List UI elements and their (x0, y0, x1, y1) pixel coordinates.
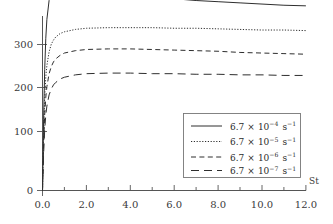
x-axis-label: St (309, 176, 319, 186)
legend-base-2: 10 (258, 153, 270, 163)
y-tick-label-0: 0 (27, 185, 33, 196)
y-tick-label-100: 100 (14, 126, 33, 137)
y-tick-label-300: 300 (14, 39, 33, 50)
legend-exponent-1: −5 (269, 136, 278, 143)
legend-mantissa-1: 6.7 (230, 137, 245, 147)
legend-label-3: 6.7×10−7s−1 (230, 165, 296, 177)
y-tick-label-200: 200 (14, 82, 33, 93)
legend-times-0: × (247, 122, 255, 132)
x-tick-group: 0.0 2.0 4.0 6.0 8.0 10.0 12.0 (35, 185, 317, 210)
legend-label-2: 6.7×10−6s−1 (230, 151, 296, 163)
legend-times-3: × (247, 166, 255, 176)
chart-figure: 300 200 100 0 0.0 2.0 4.0 6.0 8.0 10.0 (0, 0, 333, 224)
legend-exponent-2: −6 (269, 151, 278, 158)
legend-base-3: 10 (258, 166, 270, 176)
x-tick-label-0: 0.0 (35, 199, 51, 210)
legend-exponent-3: −7 (269, 165, 278, 172)
x-tick-label-4: 4.0 (122, 199, 138, 210)
line-chart: 300 200 100 0 0.0 2.0 4.0 6.0 8.0 10.0 (0, 0, 333, 224)
legend-label-0: 6.7×10−4s−1 (230, 120, 296, 132)
legend-mantissa-2: 6.7 (230, 153, 245, 163)
legend-base-1: 10 (258, 137, 270, 147)
x-tick-label-8: 8.0 (210, 199, 226, 210)
x-tick-label-6: 6.0 (166, 199, 182, 210)
legend: 6.7×10−4s−1 6.7×10−5s−1 6.7×10−6s−1 6.7×… (184, 114, 301, 178)
legend-times-1: × (247, 137, 255, 147)
legend-unit-exp-2: −1 (287, 151, 296, 158)
legend-unit-exp-1: −1 (287, 136, 296, 143)
legend-unit-exp-0: −1 (287, 120, 296, 127)
legend-unit-exp-3: −1 (287, 165, 296, 172)
legend-times-2: × (247, 153, 255, 163)
legend-mantissa-0: 6.7 (230, 122, 245, 132)
legend-exponent-0: −4 (269, 120, 278, 127)
legend-mantissa-3: 6.7 (230, 166, 245, 176)
x-tick-label-10: 10.0 (251, 199, 273, 210)
x-tick-label-12: 12.0 (295, 199, 317, 210)
legend-label-1: 6.7×10−5s−1 (230, 136, 296, 148)
x-tick-label-2: 2.0 (78, 199, 94, 210)
legend-base-0: 10 (258, 122, 270, 132)
